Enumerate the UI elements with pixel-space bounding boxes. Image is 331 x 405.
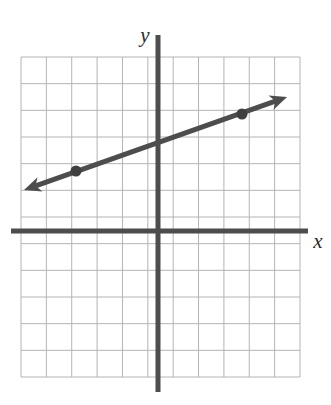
data-point-marker xyxy=(71,166,82,177)
x-axis-label: x xyxy=(312,229,323,253)
data-point-marker xyxy=(237,109,248,120)
graph-canvas: y x xyxy=(0,0,331,405)
coordinate-plane-graph: y x xyxy=(0,0,331,405)
y-axis-label: y xyxy=(138,23,150,47)
graph-background xyxy=(0,0,331,405)
